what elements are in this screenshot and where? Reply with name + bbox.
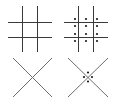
panel-cross-plain [13, 58, 52, 97]
panel-grid-dotted [64, 6, 108, 52]
panel-grid-plain [8, 6, 52, 52]
diagram-canvas [0, 0, 114, 104]
dot-markers [74, 18, 98, 42]
panel-cross-dotted [68, 58, 108, 97]
